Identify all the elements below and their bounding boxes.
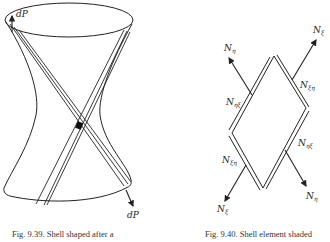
svg-text:Nξ: Nξ	[216, 204, 229, 216]
shell-element-figure: Nη Nξ Nηξ Nξη Nξη Nηξ Nη Nξ	[0, 0, 330, 242]
right-figure-caption: Fig. 9.40. Shell element shaded	[205, 229, 312, 239]
svg-text:Nη: Nη	[223, 43, 236, 55]
svg-text:Nη: Nη	[305, 191, 318, 203]
svg-text:Nξη: Nξη	[299, 80, 315, 92]
svg-text:Nξη: Nξη	[221, 155, 237, 167]
left-figure-caption: Fig. 9.39. Shell shaped after a	[12, 229, 114, 239]
svg-text:Nηξ: Nηξ	[225, 97, 241, 109]
svg-text:Nξ: Nξ	[312, 25, 325, 37]
svg-text:Nηξ: Nηξ	[297, 138, 313, 150]
